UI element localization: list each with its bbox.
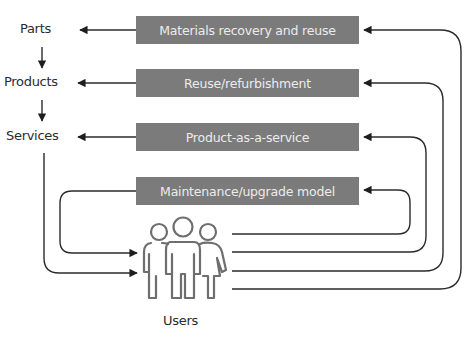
arrow-services-to-users xyxy=(44,153,137,273)
arrow-maintenance-to-users xyxy=(60,191,137,253)
output-parts: Parts xyxy=(20,21,51,36)
box-materials-recovery: Materials recovery and reuse xyxy=(136,16,359,44)
output-services: Services xyxy=(6,128,58,143)
box-reuse-refurbishment: Reuse/refurbishment xyxy=(136,69,359,97)
connector-arrows xyxy=(0,0,474,342)
box-product-as-a-service: Product-as-a-service xyxy=(136,123,359,151)
circular-economy-diagram: Parts Products Services Materials recove… xyxy=(0,0,474,342)
output-products: Products xyxy=(4,74,58,89)
people-group-icon xyxy=(140,216,228,300)
users-label: Users xyxy=(163,313,198,328)
box-maintenance-upgrade: Maintenance/upgrade model xyxy=(136,177,359,205)
